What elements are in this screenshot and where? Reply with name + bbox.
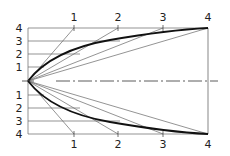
bottom-left-label-2: 2	[16, 102, 23, 115]
bottom-left-label-1: 1	[16, 89, 23, 102]
bottom-left-label-4: 4	[16, 128, 23, 141]
bottom-half: 1 2 3 4 1 2 3 4	[16, 81, 212, 151]
bottom-tick-label-4: 4	[205, 138, 212, 151]
bottom-left-label-3: 3	[16, 115, 23, 128]
bottom-tick-label-1: 1	[71, 138, 78, 151]
top-left-label-2: 2	[16, 48, 23, 61]
top-tick-label-2: 2	[115, 11, 122, 24]
top-left-label-4: 4	[16, 22, 23, 35]
parabola-construction-diagram: 1 2 3 4 4 3 2 1 1 2 3 4 1 2 3 4	[0, 0, 230, 156]
top-left-label-1: 1	[16, 61, 23, 74]
top-half: 1 2 3 4 4 3 2 1	[16, 11, 212, 81]
top-tick-label-4: 4	[205, 11, 212, 24]
bottom-tick-label-3: 3	[160, 138, 167, 151]
top-tick-label-3: 3	[160, 11, 167, 24]
top-left-label-3: 3	[16, 35, 23, 48]
top-tick-label-1: 1	[71, 11, 78, 24]
bottom-tick-label-2: 2	[115, 138, 122, 151]
